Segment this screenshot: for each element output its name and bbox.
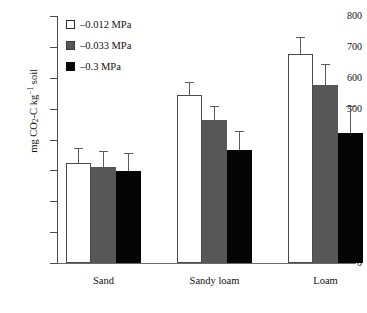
bar bbox=[288, 54, 313, 263]
y-axis-title: mg CO2-C kg−1 soil bbox=[26, 31, 40, 191]
y-tick-mark bbox=[50, 201, 57, 202]
y-tick-mark bbox=[50, 16, 57, 17]
y-tick-mark bbox=[50, 78, 57, 79]
error-bar bbox=[325, 64, 326, 85]
legend-swatch-gray-icon bbox=[66, 41, 75, 50]
legend-label-0: –0.012 MPa bbox=[80, 19, 131, 30]
error-bar-cap bbox=[99, 151, 108, 152]
y-axis-title-mid: -C kg bbox=[28, 95, 39, 119]
x-axis-line bbox=[57, 263, 356, 264]
x-category-label: Loam bbox=[266, 275, 367, 286]
y-axis-title-suffix: soil bbox=[28, 69, 39, 87]
legend-swatch-black-icon bbox=[66, 62, 75, 71]
y-tick-label: 800 bbox=[316, 11, 362, 21]
error-bar-cap bbox=[296, 37, 305, 38]
error-bar bbox=[300, 37, 301, 54]
y-tick-label: 600 bbox=[316, 73, 362, 83]
bar bbox=[313, 85, 338, 263]
bar bbox=[338, 133, 363, 263]
y-axis-line bbox=[57, 16, 58, 264]
error-bar bbox=[128, 153, 129, 171]
legend: –0.012 MPa –0.033 MPa –0.3 MPa bbox=[66, 16, 131, 79]
y-axis-title-prefix: mg CO bbox=[28, 122, 39, 153]
y-tick-mark bbox=[50, 263, 57, 264]
bar bbox=[116, 171, 141, 263]
error-bar-cap bbox=[124, 153, 133, 154]
y-tick-mark bbox=[50, 140, 57, 141]
error-bar bbox=[78, 148, 79, 163]
y-tick-mark bbox=[50, 109, 57, 110]
bar bbox=[66, 163, 91, 263]
y-tick-label: 700 bbox=[316, 42, 362, 52]
y-axis-title-sub: 2 bbox=[31, 118, 40, 122]
legend-swatch-white-icon bbox=[66, 20, 75, 29]
error-bar bbox=[189, 82, 190, 96]
error-bar bbox=[350, 106, 351, 134]
legend-item-2: –0.3 MPa bbox=[66, 58, 131, 74]
error-bar bbox=[103, 151, 104, 167]
legend-label-2: –0.3 MPa bbox=[80, 61, 121, 72]
bar bbox=[202, 120, 227, 263]
error-bar-cap bbox=[185, 82, 194, 83]
y-tick-mark bbox=[50, 170, 57, 171]
x-category-label: Sandy loam bbox=[155, 275, 274, 286]
legend-item-0: –0.012 MPa bbox=[66, 16, 131, 32]
legend-label-1: –0.033 MPa bbox=[80, 40, 131, 51]
error-bar-cap bbox=[210, 106, 219, 107]
bar bbox=[177, 95, 202, 263]
y-tick-mark bbox=[50, 47, 57, 48]
bar bbox=[91, 167, 116, 263]
legend-item-1: –0.033 MPa bbox=[66, 37, 131, 53]
error-bar bbox=[214, 106, 215, 121]
error-bar bbox=[239, 131, 240, 150]
y-axis-title-sup: −1 bbox=[26, 87, 35, 95]
error-bar-cap bbox=[74, 148, 83, 149]
error-bar-cap bbox=[235, 131, 244, 132]
x-category-label: Sand bbox=[44, 275, 163, 286]
error-bar-cap bbox=[321, 64, 330, 65]
y-tick-mark bbox=[50, 232, 57, 233]
bar bbox=[227, 150, 252, 263]
error-bar-cap bbox=[346, 106, 355, 107]
